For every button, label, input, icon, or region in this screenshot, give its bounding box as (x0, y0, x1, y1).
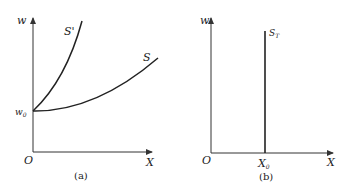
curve-s-prime-label: S' (64, 25, 75, 38)
caption-b: (b) (259, 171, 273, 182)
diagram-canvas: w O X S' S w0 (a) w O X ST X0 (b) (0, 0, 352, 193)
panel-b: w O X ST X0 (b) (200, 14, 336, 182)
curve-s-label: S (143, 51, 151, 64)
y-axis-label: w (200, 14, 210, 27)
caption-a: (a) (74, 170, 88, 181)
x0-label: X0 (257, 157, 270, 170)
panel-a: w O X S' S w0 (a) (15, 14, 158, 181)
intercept-label: w0 (15, 107, 27, 118)
y-axis-label: w (17, 14, 27, 27)
x-axis-label: X (326, 156, 336, 169)
curve-s (33, 58, 158, 111)
origin-label: O (202, 154, 211, 167)
curve-s-prime (33, 21, 82, 111)
x-axis-label: X (145, 156, 155, 169)
origin-label: O (24, 154, 33, 167)
curve-st-label: ST (269, 28, 280, 39)
